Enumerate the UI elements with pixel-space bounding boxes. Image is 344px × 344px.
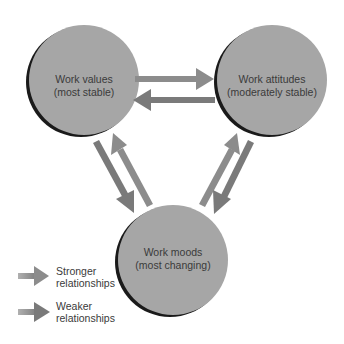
legend-weaker-arrow-icon: [18, 302, 50, 322]
label-work-moods-title: Work moods: [118, 246, 228, 259]
label-work-moods: Work moods (most changing): [118, 246, 228, 272]
legend-stronger-line2: relationships: [56, 277, 115, 289]
arrow-values-to-attitudes: [135, 68, 214, 90]
legend-weaker-label: Weaker relationships: [56, 300, 115, 324]
diagram-canvas: [0, 0, 344, 344]
label-work-values-subtitle: (most stable): [29, 86, 139, 99]
legend-weaker-line1: Weaker: [56, 300, 115, 312]
arrow-attitudes-to-values: [133, 89, 215, 111]
label-work-attitudes: Work attitudes (moderately stable): [217, 73, 327, 99]
label-work-values: Work values (most stable): [29, 73, 139, 99]
label-work-moods-subtitle: (most changing): [118, 259, 228, 272]
legend-weaker-line2: relationships: [56, 312, 115, 324]
label-work-values-title: Work values: [29, 73, 139, 86]
legend-stronger-label: Stronger relationships: [56, 265, 115, 289]
label-work-attitudes-title: Work attitudes: [217, 73, 327, 86]
legend-stronger-line1: Stronger: [56, 265, 115, 277]
label-work-attitudes-subtitle: (moderately stable): [217, 86, 327, 99]
legend-stronger-arrow-icon: [18, 266, 49, 286]
